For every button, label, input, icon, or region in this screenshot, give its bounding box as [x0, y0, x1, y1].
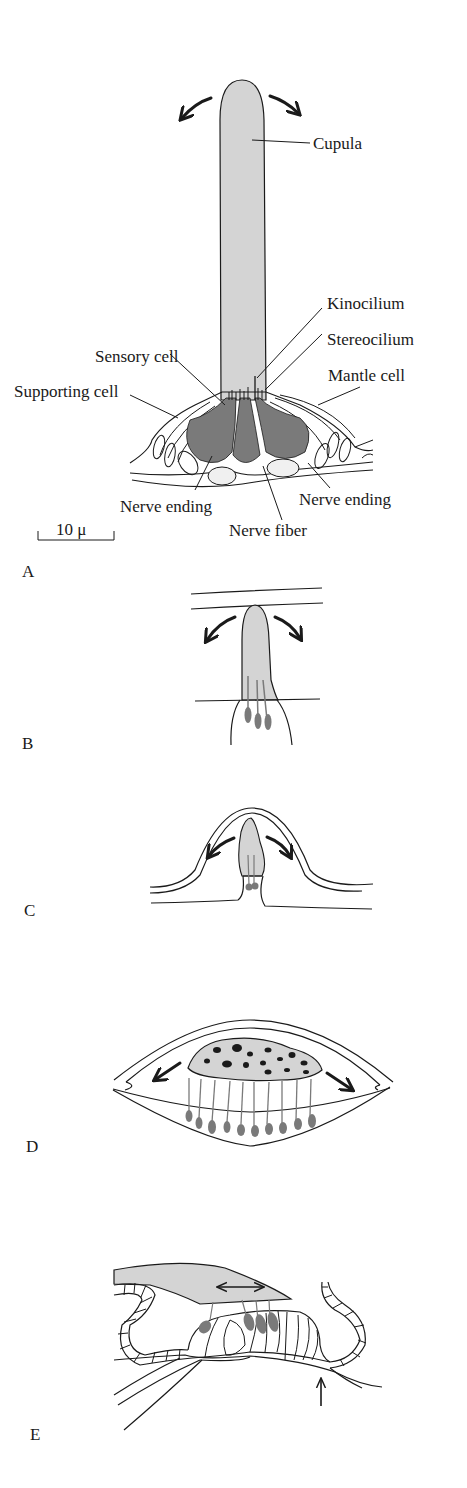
panel-letter-e: E	[30, 1425, 40, 1444]
nerve-ending	[267, 459, 299, 477]
panel-letter-b: B	[22, 734, 33, 753]
curved-right-arrow	[275, 617, 300, 638]
label-nerve-ending-right: Nerve ending	[299, 490, 392, 509]
panel-letter-d: D	[26, 1137, 38, 1156]
epithelial-segments	[118, 1283, 180, 1363]
label-stereocilium: Stereocilium	[327, 330, 414, 349]
label-sensory-cell: Sensory cell	[95, 347, 179, 366]
hair-cells	[186, 1078, 317, 1137]
hair-cells	[196, 1300, 280, 1336]
curved-left-arrow	[182, 98, 211, 118]
label-kinocilium: Kinocilium	[327, 294, 404, 313]
cupula	[239, 818, 265, 876]
panel-d: D	[26, 1020, 393, 1156]
down-left-arrow	[156, 1063, 180, 1079]
curved-left-arrow	[207, 617, 235, 640]
nerve-ending	[208, 467, 236, 485]
cupula	[220, 80, 266, 400]
sensory-cell	[233, 398, 260, 463]
panel-b: B	[22, 588, 323, 753]
sensory-cell	[255, 398, 309, 459]
panel-e: E	[30, 1263, 382, 1444]
down-right-arrow	[327, 1073, 351, 1089]
panel-letter-c: C	[24, 901, 35, 920]
sensory-cell	[187, 398, 236, 463]
label-supporting-cell: Supporting cell	[14, 382, 119, 401]
label-mantle-cell: Mantle cell	[328, 366, 405, 385]
curved-right-arrow	[270, 96, 298, 113]
panel-a: Cupula Kinocilium Stereocilium Sensory c…	[14, 80, 414, 581]
label-nerve-ending-left: Nerve ending	[120, 497, 213, 516]
label-nerve-fiber: Nerve fiber	[229, 521, 307, 540]
curved-right-arrow	[267, 837, 290, 856]
panel-letter-a: A	[22, 562, 35, 581]
panel-c: C	[24, 808, 373, 920]
biology-figure: Cupula Kinocilium Stereocilium Sensory c…	[0, 0, 467, 1488]
scale-bar-label: 10 μ	[56, 520, 86, 539]
label-cupula: Cupula	[313, 134, 363, 153]
